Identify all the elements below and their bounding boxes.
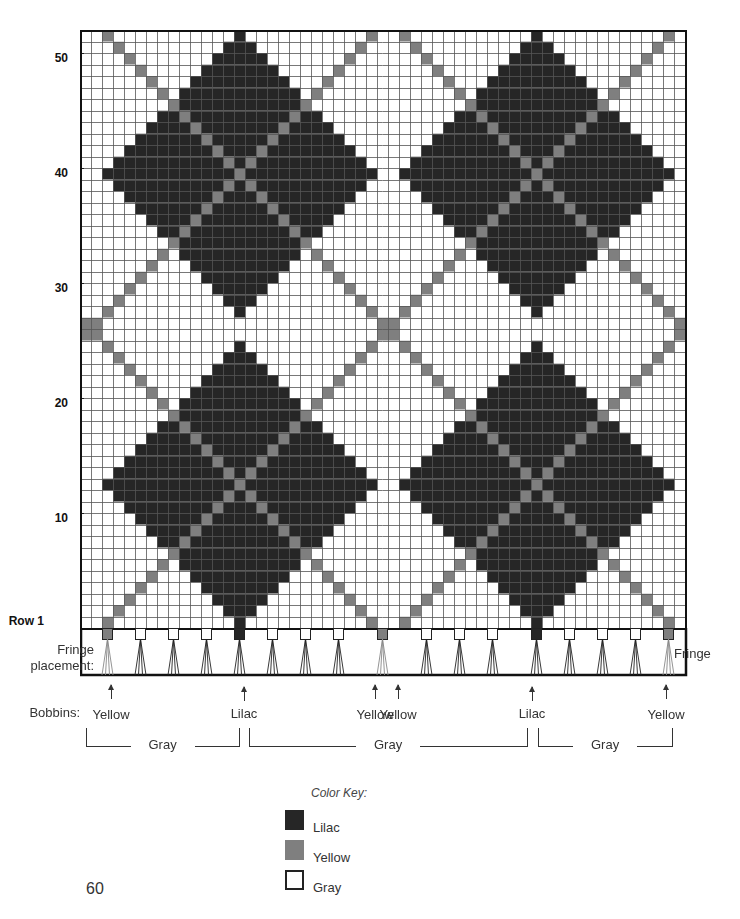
up-arrow-icon: [244, 687, 245, 701]
gray-section-label: Gray: [591, 737, 619, 752]
up-arrow-icon: [666, 685, 667, 699]
color-key-title: Color Key:: [311, 786, 367, 800]
bracket-line: [249, 728, 250, 747]
color-key-label: Gray: [313, 880, 341, 895]
bracket-line: [637, 746, 673, 747]
bracket-line: [249, 746, 356, 747]
up-arrow-icon: [111, 685, 112, 699]
page-number: 60: [86, 880, 104, 898]
bracket-line: [420, 746, 528, 747]
bobbins-label: Bobbins:: [10, 705, 80, 721]
fringe-label-line1: Fringe: [8, 642, 94, 658]
row-label: 40: [28, 166, 68, 180]
row-label: 20: [28, 396, 68, 410]
fringe-label-line2: placement:: [8, 658, 94, 674]
bracket-line: [195, 746, 241, 747]
yellow-swatch-icon: [285, 840, 304, 860]
bobbin-label: Lilac: [502, 706, 562, 721]
bracket-line: [86, 728, 87, 747]
bracket-line: [672, 728, 673, 747]
bobbin-label: Yellow: [368, 707, 428, 722]
row-label: 30: [28, 281, 68, 295]
bracket-line: [538, 728, 539, 747]
up-arrow-icon: [532, 687, 533, 701]
gray-section-label: Gray: [149, 737, 177, 752]
up-arrow-icon: [398, 685, 399, 699]
gray-swatch-icon: [285, 870, 304, 890]
bracket-line: [538, 746, 573, 747]
bobbin-label: Lilac: [214, 706, 274, 721]
gray-section-label: Gray: [374, 737, 402, 752]
lilac-swatch-icon: [285, 810, 304, 830]
fringe-right-label: Fringe: [674, 646, 711, 661]
row-label: 10: [28, 511, 68, 525]
color-key-label: Yellow: [313, 850, 350, 865]
bobbin-label: Yellow: [81, 707, 141, 722]
bobbin-label: Yellow: [636, 707, 696, 722]
row-label: Row 1: [4, 614, 44, 628]
bracket-line: [527, 728, 528, 747]
row-label: 50: [28, 51, 68, 65]
fringe-placement-label: Fringe placement:: [8, 642, 94, 674]
up-arrow-icon: [375, 685, 376, 699]
color-key-label: Lilac: [313, 820, 340, 835]
bracket-line: [86, 746, 131, 747]
argyle-chart-grid: [80, 30, 689, 679]
bracket-line: [239, 728, 240, 747]
